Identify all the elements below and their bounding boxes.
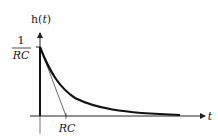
peak-label-numerator: 1 xyxy=(18,34,25,47)
peak-label-denominator: RC xyxy=(12,49,30,62)
t-axis-label: t xyxy=(208,110,213,123)
y-axis-label: h(t) xyxy=(31,13,51,26)
decay-curve xyxy=(40,47,180,115)
rc-label: RC xyxy=(58,122,76,135)
impulse-response-diagram: h(t) 1 RC RC t xyxy=(0,0,218,140)
